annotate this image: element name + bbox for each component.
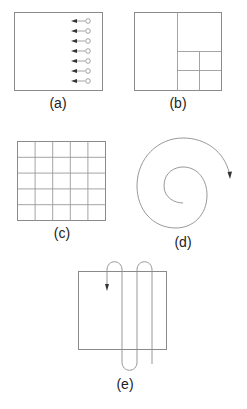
panel-d-label: (d) [174,234,191,250]
spiral-path [137,138,229,228]
source-circle-icon [86,69,91,74]
source-circle-icon [86,29,91,34]
panel-a-arrows [71,19,90,84]
source-circle-icon [86,19,91,24]
arrow-row-6 [71,69,90,74]
panel-d [137,138,232,228]
source-circle-icon [86,39,91,44]
panel-a-label: (a) [49,95,66,111]
source-circle-icon [86,79,91,84]
arrow-row-7 [71,79,90,84]
arrow-row-3 [71,39,90,44]
serpentine-arrowhead-icon [105,284,109,291]
panel-c [18,142,106,221]
figure-canvas [0,0,247,409]
source-circle-icon [86,49,91,54]
panel-e-label: (e) [116,376,133,392]
panel-b-label: (b) [169,95,186,111]
panel-a [15,13,103,91]
panel-e [79,262,167,371]
panel-c-frame [18,142,106,221]
panel-c-label: (c) [54,225,70,241]
serpentine-path [107,262,152,371]
panel-b [135,13,222,91]
arrow-row-1 [71,19,90,24]
spiral-arrowhead-icon [228,172,233,180]
panel-e-frame [79,272,167,350]
arrow-row-4 [71,49,90,54]
arrow-row-5 [71,59,90,64]
arrow-row-2 [71,29,90,34]
source-circle-icon [86,59,91,64]
